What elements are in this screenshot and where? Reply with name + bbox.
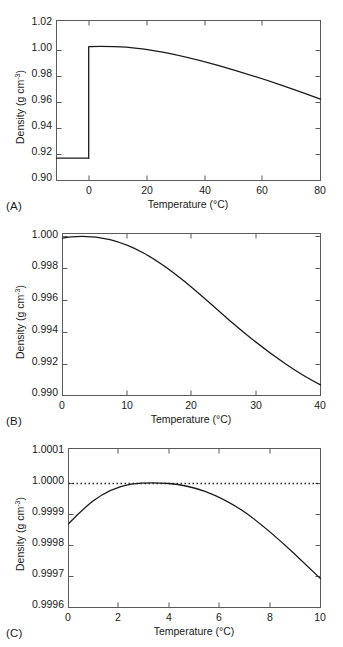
svg-text:Density (g cm-3): Density (g cm-3): [13, 70, 26, 144]
svg-text:0.9998: 0.9998: [32, 536, 64, 548]
panel-b-y-tickmarks: [63, 237, 321, 365]
panel-c: Density (g cm-3) 0.9996 0.9997 0.9998 0.…: [0, 429, 343, 641]
svg-text:6: 6: [216, 611, 222, 623]
svg-text:4: 4: [166, 611, 172, 623]
svg-text:0.998: 0.998: [32, 259, 58, 271]
svg-text:1.000: 1.000: [32, 228, 58, 240]
panel-c-x-tick-labels: 0 2 4 6 8 10: [65, 611, 326, 623]
panel-a-y-tickmarks: [57, 51, 321, 181]
panel-b-x-tickmarks: [127, 234, 256, 396]
svg-text:0.9999: 0.9999: [32, 505, 64, 517]
svg-text:40: 40: [199, 184, 211, 196]
svg-text:10: 10: [121, 399, 133, 411]
panel-c-y-axis-title: Density (g cm-3): [13, 497, 26, 571]
svg-text:40: 40: [314, 399, 326, 411]
panel-b-x-tick-labels: 0 10 20 30 40: [59, 399, 326, 411]
svg-text:8: 8: [267, 611, 273, 623]
panel-b-water-curve: [63, 236, 321, 384]
svg-text:0: 0: [86, 184, 92, 196]
svg-text:1.02: 1.02: [32, 15, 53, 27]
svg-text:1.00: 1.00: [32, 41, 53, 53]
panel-c-x-axis-title: Temperature (°C): [154, 625, 235, 637]
svg-text:0.90: 0.90: [32, 171, 53, 183]
panel-a-water-curve: [89, 46, 321, 158]
panel-a-plot: Density (g cm-3) 0.90 0.92 0.94 0.96 0.9…: [0, 2, 343, 214]
svg-text:30: 30: [250, 399, 262, 411]
panel-a-y-axis-title: Density (g cm-3): [13, 70, 26, 144]
panel-c-x-tickmarks: [118, 449, 270, 608]
svg-text:20: 20: [185, 399, 197, 411]
panel-c-label: (C): [6, 627, 23, 639]
panel-b-label: (B): [6, 415, 22, 427]
panel-a-x-axis-title: Temperature (°C): [148, 198, 229, 210]
panel-a-label: (A): [6, 200, 22, 212]
svg-text:20: 20: [141, 184, 153, 196]
panel-a-x-tick-labels: 0 20 40 60 80: [86, 184, 326, 196]
svg-text:0.994: 0.994: [32, 323, 58, 335]
panel-b: Density (g cm-3) 0.990 0.992 0.994 0.996…: [0, 217, 343, 429]
svg-text:0.98: 0.98: [32, 67, 53, 79]
panel-a-x-tickmarks: [89, 21, 262, 181]
panel-b-x-axis-title: Temperature (°C): [151, 413, 232, 425]
svg-text:Density (g cm-3): Density (g cm-3): [13, 285, 26, 359]
svg-text:0.996: 0.996: [32, 291, 58, 303]
svg-text:10: 10: [314, 611, 326, 623]
panel-b-plot: Density (g cm-3) 0.990 0.992 0.994 0.996…: [0, 217, 343, 429]
panel-c-y-tick-labels: 0.9996 0.9997 0.9998 0.9999 1.0000 1.000…: [32, 443, 64, 610]
density-temperature-figure: Density (g cm-3) 0.90 0.92 0.94 0.96 0.9…: [0, 0, 343, 647]
svg-text:0: 0: [65, 611, 71, 623]
panel-c-water-curve: [69, 483, 321, 579]
panel-b-y-tick-labels: 0.990 0.992 0.994 0.996 0.998 1.000: [32, 228, 58, 398]
svg-text:Density (g cm-3): Density (g cm-3): [13, 497, 26, 571]
svg-text:0.992: 0.992: [32, 355, 58, 367]
panel-c-frame: [69, 449, 321, 608]
svg-text:0: 0: [59, 399, 65, 411]
svg-text:1.0000: 1.0000: [32, 474, 64, 486]
svg-text:0.9997: 0.9997: [32, 567, 64, 579]
panel-b-frame: [63, 234, 321, 396]
svg-text:0.9996: 0.9996: [32, 598, 64, 610]
svg-text:0.92: 0.92: [32, 145, 53, 157]
svg-text:0.96: 0.96: [32, 93, 53, 105]
panel-c-plot: Density (g cm-3) 0.9996 0.9997 0.9998 0.…: [0, 429, 343, 641]
panel-a-frame: [57, 21, 321, 181]
panel-c-y-tickmarks: [69, 484, 321, 577]
panel-b-y-axis-title: Density (g cm-3): [13, 285, 26, 359]
panel-a: Density (g cm-3) 0.90 0.92 0.94 0.96 0.9…: [0, 2, 343, 214]
svg-text:2: 2: [115, 611, 121, 623]
panel-a-y-tick-labels: 0.90 0.92 0.94 0.96 0.98 1.00 1.02: [32, 15, 53, 183]
svg-text:1.0001: 1.0001: [32, 443, 64, 455]
svg-text:60: 60: [256, 184, 268, 196]
svg-text:0.990: 0.990: [32, 386, 58, 398]
svg-text:0.94: 0.94: [32, 119, 53, 131]
svg-text:80: 80: [314, 184, 326, 196]
